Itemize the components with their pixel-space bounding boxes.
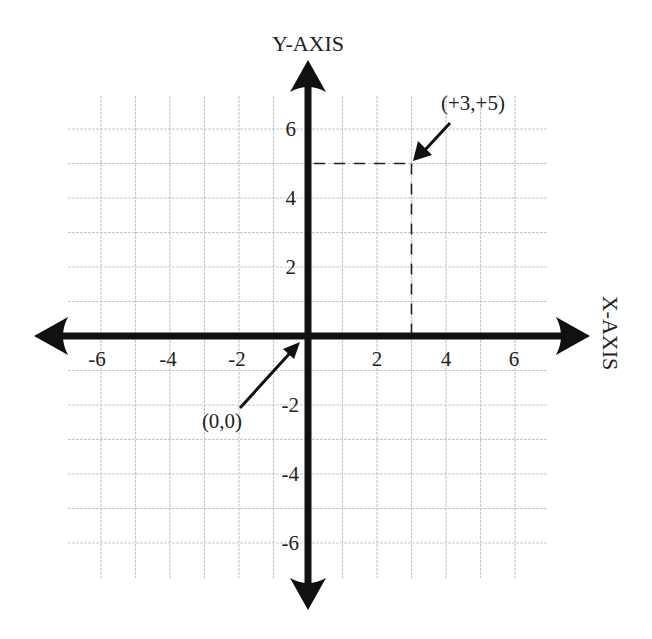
x-axis-right-arrowhead-icon [556,317,590,355]
x-axis-label: X-AXIS [598,296,623,371]
x-tick-labels: -6 -4 -2 2 4 6 [88,347,519,371]
origin-label: (0,0) [202,409,242,433]
y-axis-label: Y-AXIS [272,31,344,56]
y-tick-label: -2 [282,393,300,417]
y-tick-label: 6 [286,117,297,141]
x-tick-label: -2 [228,347,246,371]
y-tick-label: -6 [282,531,300,555]
coordinate-plane: Y-AXIS X-AXIS -6 -4 -2 2 4 6 6 4 2 -2 -4… [0,0,652,639]
x-tick-label: 2 [372,347,383,371]
x-axis [34,317,590,355]
annotation-point-3-5: (+3,+5) [413,91,505,161]
y-tick-label: 4 [286,186,297,210]
x-tick-label: -6 [88,347,106,371]
y-tick-label: -4 [282,462,300,486]
annotation-origin: (0,0) [202,342,300,433]
x-axis-left-arrowhead-icon [34,317,68,355]
point-guides [314,164,412,334]
y-tick-label: 2 [286,255,297,279]
point-label: (+3,+5) [441,91,505,115]
x-tick-label: -4 [159,347,177,371]
x-tick-label: 6 [509,347,520,371]
x-tick-label: 4 [441,347,452,371]
